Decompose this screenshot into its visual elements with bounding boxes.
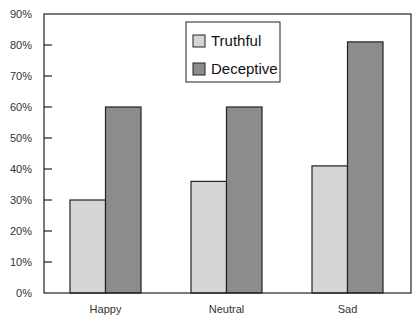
y-tick-label: 50% [10,132,32,144]
y-tick-label: 70% [10,70,32,82]
x-axis: HappyNeutralSad [90,303,358,315]
y-tick-label: 40% [10,163,32,175]
legend-swatch-deceptive [193,63,205,75]
x-category-label: Sad [338,303,358,315]
y-axis: 0%10%20%30%40%50%60%70%80%90% [10,8,52,299]
bar-truthful-neutral [191,181,227,293]
bar-deceptive-happy [106,107,142,293]
legend-swatch-truthful [193,35,205,47]
bar-deceptive-sad [348,42,384,293]
y-tick-label: 10% [10,256,32,268]
bar-deceptive-neutral [227,107,263,293]
x-category-label: Happy [90,303,122,315]
y-tick-label: 90% [10,8,32,20]
y-tick-label: 0% [16,287,32,299]
bar-chart: 0%10%20%30%40%50%60%70%80%90% HappyNeutr… [0,0,419,323]
legend-label-truthful: Truthful [211,32,261,49]
y-tick-label: 60% [10,101,32,113]
legend: Truthful Deceptive [186,22,280,82]
y-tick-label: 20% [10,225,32,237]
y-tick-label: 30% [10,194,32,206]
bar-truthful-happy [70,200,106,293]
legend-label-deceptive: Deceptive [211,60,278,77]
y-tick-label: 80% [10,39,32,51]
bar-truthful-sad [312,166,348,293]
x-category-label: Neutral [209,303,244,315]
